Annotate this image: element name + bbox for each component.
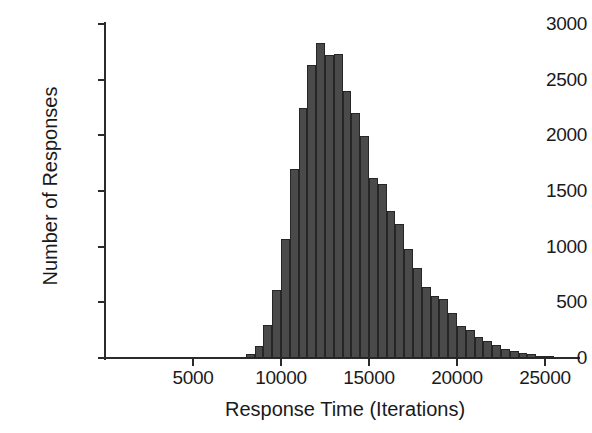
histogram-bar xyxy=(272,290,281,358)
histogram-bar xyxy=(290,169,299,358)
histogram-bar xyxy=(351,113,360,358)
x-tick-label: 25000 xyxy=(485,368,592,387)
histogram-bar xyxy=(413,268,422,358)
histogram-bar xyxy=(475,337,484,358)
histogram-bar xyxy=(255,346,264,358)
x-tick-mark xyxy=(456,359,458,366)
histogram-bar xyxy=(457,326,466,358)
histogram-bar xyxy=(299,108,308,359)
histogram-bar xyxy=(325,55,334,358)
histogram-bar xyxy=(307,65,316,358)
histogram-bar xyxy=(422,287,431,358)
histogram-bar xyxy=(545,356,554,358)
histogram-bar xyxy=(448,313,457,358)
x-tick-mark xyxy=(192,359,194,366)
histogram-bar xyxy=(263,325,272,358)
histogram-bars xyxy=(105,24,585,358)
histogram-bar xyxy=(536,356,545,358)
histogram-bar xyxy=(431,296,440,358)
histogram-bar xyxy=(316,43,325,358)
histogram-bar xyxy=(439,299,448,358)
histogram-bar xyxy=(510,351,519,358)
y-tick-mark xyxy=(98,79,105,81)
histogram-bar xyxy=(281,239,290,358)
y-tick-mark xyxy=(98,23,105,25)
x-tick-mark xyxy=(544,359,546,366)
histogram-bar xyxy=(404,249,413,358)
histogram-bar xyxy=(369,178,378,358)
histogram-bar xyxy=(501,349,510,358)
histogram-bar xyxy=(492,345,501,358)
y-tick-mark xyxy=(98,301,105,303)
histogram-bar xyxy=(378,184,387,358)
histogram-bar xyxy=(343,91,352,358)
histogram-bar xyxy=(483,341,492,358)
histogram-bar xyxy=(246,354,255,358)
y-tick-mark xyxy=(98,357,105,359)
x-axis-title: Response Time (Iterations) xyxy=(105,398,585,420)
histogram-bar xyxy=(466,330,475,358)
y-tick-mark xyxy=(98,190,105,192)
histogram-bar xyxy=(360,136,369,358)
histogram-bar xyxy=(387,211,396,358)
y-tick-mark xyxy=(98,134,105,136)
histogram-bar xyxy=(334,54,343,358)
x-tick-mark xyxy=(368,359,370,366)
histogram-bar xyxy=(527,354,536,358)
x-tick-mark xyxy=(280,359,282,366)
y-tick-mark xyxy=(98,246,105,248)
histogram-bar xyxy=(395,224,404,358)
histogram-bar xyxy=(519,353,528,358)
y-axis-title: Number of Responses xyxy=(39,36,61,336)
